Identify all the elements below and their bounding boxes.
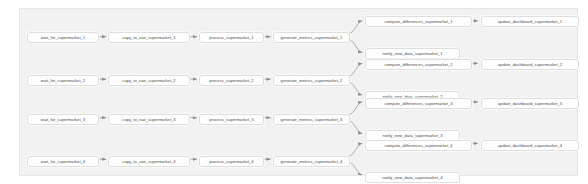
task-label: update_dashboard_supermarket_2: [485, 60, 575, 69]
task-node-process-3[interactable]: process_supermarket_3: [199, 114, 264, 125]
task-node-copy-2[interactable]: copy_to_raw_supermarket_2: [108, 75, 190, 86]
task-label: compute_differences_supermarket_4: [369, 141, 468, 150]
task-node-notify-4[interactable]: notify_new_data_supermarket_4: [365, 172, 460, 183]
task-node-metrics-3[interactable]: generate_metrics_supermarket_3: [273, 114, 350, 125]
task-label: notify_new_data_supermarket_4: [369, 173, 456, 182]
task-label: generate_metrics_supermarket_4: [277, 157, 346, 166]
task-label: generate_metrics_supermarket_2: [277, 76, 346, 85]
dag-graph-canvas[interactable]: wait_for_supermarket_1 copy_to_raw_super…: [19, 8, 578, 176]
task-label: process_supermarket_3: [203, 115, 260, 124]
task-label: process_supermarket_4: [203, 157, 260, 166]
task-label: copy_to_raw_supermarket_4: [112, 157, 186, 166]
task-node-wait-1[interactable]: wait_for_supermarket_1: [27, 32, 99, 43]
task-node-metrics-4[interactable]: generate_metrics_supermarket_4: [273, 156, 350, 167]
task-node-notify-3[interactable]: notify_new_data_supermarket_3: [365, 130, 460, 141]
task-node-compute-3[interactable]: compute_differences_supermarket_3: [365, 98, 472, 109]
task-label: notify_new_data_supermarket_3: [369, 131, 456, 140]
task-node-wait-2[interactable]: wait_for_supermarket_2: [27, 75, 99, 86]
task-label: wait_for_supermarket_4: [31, 157, 95, 166]
task-node-wait-3[interactable]: wait_for_supermarket_3: [27, 114, 99, 125]
task-node-dashboard-1[interactable]: update_dashboard_supermarket_1: [481, 16, 579, 27]
task-label: generate_metrics_supermarket_3: [277, 115, 346, 124]
task-label: compute_differences_supermarket_2: [369, 60, 468, 69]
task-label: update_dashboard_supermarket_4: [485, 141, 575, 150]
task-label: process_supermarket_2: [203, 76, 260, 85]
task-node-metrics-2[interactable]: generate_metrics_supermarket_2: [273, 75, 350, 86]
task-node-copy-1[interactable]: copy_to_raw_supermarket_1: [108, 32, 190, 43]
task-node-wait-4[interactable]: wait_for_supermarket_4: [27, 156, 99, 167]
task-node-compute-1[interactable]: compute_differences_supermarket_1: [365, 16, 472, 27]
task-node-notify-1[interactable]: notify_new_data_supermarket_1: [365, 48, 460, 59]
task-label: copy_to_raw_supermarket_1: [112, 33, 186, 42]
task-label: process_supermarket_1: [203, 33, 260, 42]
task-label: notify_new_data_supermarket_1: [369, 49, 456, 58]
task-label: compute_differences_supermarket_3: [369, 99, 468, 108]
task-node-process-2[interactable]: process_supermarket_2: [199, 75, 264, 86]
task-label: wait_for_supermarket_1: [31, 33, 95, 42]
task-node-dashboard-2[interactable]: update_dashboard_supermarket_2: [481, 59, 579, 70]
task-node-metrics-1[interactable]: generate_metrics_supermarket_1: [273, 32, 350, 43]
task-label: update_dashboard_supermarket_3: [485, 99, 575, 108]
task-label: copy_to_raw_supermarket_2: [112, 76, 186, 85]
task-node-copy-4[interactable]: copy_to_raw_supermarket_4: [108, 156, 190, 167]
task-node-dashboard-4[interactable]: update_dashboard_supermarket_4: [481, 140, 579, 151]
task-node-process-4[interactable]: process_supermarket_4: [199, 156, 264, 167]
task-node-process-1[interactable]: process_supermarket_1: [199, 32, 264, 43]
task-label: compute_differences_supermarket_1: [369, 17, 468, 26]
task-label: wait_for_supermarket_3: [31, 115, 95, 124]
task-label: update_dashboard_supermarket_1: [485, 17, 575, 26]
task-node-dashboard-3[interactable]: update_dashboard_supermarket_3: [481, 98, 579, 109]
task-label: copy_to_raw_supermarket_3: [112, 115, 186, 124]
task-label: wait_for_supermarket_2: [31, 76, 95, 85]
task-label: generate_metrics_supermarket_1: [277, 33, 346, 42]
task-node-copy-3[interactable]: copy_to_raw_supermarket_3: [108, 114, 190, 125]
task-node-compute-4[interactable]: compute_differences_supermarket_4: [365, 140, 472, 151]
task-node-compute-2[interactable]: compute_differences_supermarket_2: [365, 59, 472, 70]
